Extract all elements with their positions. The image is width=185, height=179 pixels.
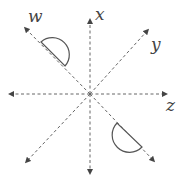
axes-diagram: w x y z [0,0,185,179]
x-axis-label: x [95,4,105,24]
diagram-canvas: w x y z [0,0,185,179]
upper-semicircle [41,38,69,66]
y-axis [90,31,147,94]
lower-semicircle [112,123,142,152]
w-axis-label: w [28,6,43,26]
y-axis-label: y [150,34,161,54]
z-axis-label: z [165,95,176,115]
y-axis-negative [27,94,90,161]
